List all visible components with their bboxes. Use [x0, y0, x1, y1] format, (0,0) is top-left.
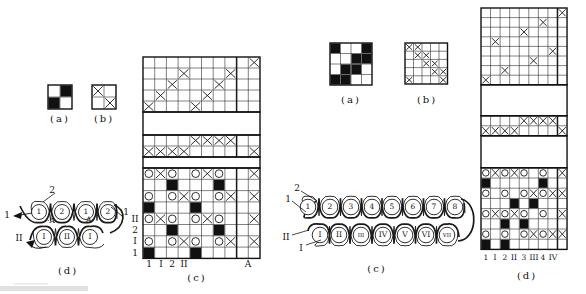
grid-cell-black	[190, 248, 201, 259]
grid-cell-circle	[192, 192, 200, 200]
annotation-line	[292, 230, 309, 235]
grid-cell-circle	[521, 231, 528, 238]
grid-cell-circle	[483, 210, 490, 217]
chain-circle-label: 4	[370, 202, 375, 211]
yarn-label-II: II	[282, 233, 289, 242]
yarn-label-1: 1	[285, 195, 291, 204]
grid-cell-circle	[502, 210, 509, 217]
col-label: 1	[146, 260, 152, 269]
grid-cell-circle	[540, 231, 547, 238]
blank-band	[481, 85, 567, 116]
chain-circle-label: 7	[432, 202, 437, 211]
knitting-pattern-figure: 1212IIII12345678IIIIIIIVVVIVII (a) (b) (…	[0, 0, 586, 294]
grid-cell-black	[481, 178, 490, 187]
chain-circle-label: VI	[421, 230, 430, 239]
chain-circle-label: 2	[106, 207, 111, 216]
chain-circle-label: I	[43, 232, 46, 241]
chain-circle-label: 6	[411, 202, 416, 211]
caption-left-c: (c)	[187, 273, 206, 283]
col-label: 2	[503, 254, 508, 262]
grid-cell-circle	[145, 170, 153, 178]
chain-circle-label: IV	[379, 230, 388, 239]
grid-cell-black	[481, 240, 490, 249]
caption-left-b: (b)	[94, 114, 114, 124]
col-label: 1	[484, 254, 489, 262]
grid-cell-black	[341, 75, 351, 85]
grid-cell-circle	[145, 238, 153, 246]
grid-cell-circle	[540, 210, 547, 217]
grid-cell-black	[330, 43, 340, 53]
grid-cell-black	[539, 178, 548, 187]
grid-cell-circle	[521, 190, 528, 197]
yarn-label-II: II	[15, 234, 22, 243]
grid-cell-black	[167, 225, 178, 236]
chain-circle-label: II	[64, 232, 70, 241]
yarn-label-I: I	[299, 244, 303, 253]
grid-cell-black	[48, 97, 59, 108]
chain-circle-label: VII	[442, 232, 451, 238]
chain-circle-label: 2	[60, 207, 65, 216]
caption-left-a: (a)	[50, 114, 70, 124]
col-label: 3	[522, 254, 527, 262]
grid-cell-circle	[145, 215, 153, 223]
grid-cell-circle	[483, 170, 490, 177]
scan-smudge	[0, 286, 88, 291]
col-label: 2	[169, 260, 175, 269]
grid-cell-circle	[192, 215, 200, 223]
grid-cell-circle	[215, 238, 223, 246]
col-label: III	[530, 254, 539, 262]
grid-cell-circle	[540, 190, 547, 197]
caption-right-c: (c)	[367, 264, 386, 274]
grid-cell-black	[501, 219, 510, 228]
grid-cell-circle	[168, 192, 176, 200]
grid-cell-circle	[521, 170, 528, 177]
col-label: 4	[541, 254, 546, 262]
grid-cell-black	[143, 202, 154, 213]
diagram-canvas: 1212IIII12345678IIIIIIIVVVIVII	[0, 0, 586, 294]
arrowhead	[26, 240, 35, 248]
grid-cell-circle	[192, 238, 200, 246]
grid-cell-circle	[168, 170, 176, 178]
blank-band	[143, 157, 260, 168]
grid-cell-black	[351, 64, 361, 74]
grid-cell-circle	[483, 190, 490, 197]
caption-right-b: (b)	[417, 95, 437, 105]
grid-cell-circle	[215, 192, 223, 200]
grid-cell-circle	[215, 215, 223, 223]
grid-cell-black	[214, 180, 225, 191]
chain-circle-label: 5	[390, 202, 395, 211]
grid-cell-circle	[502, 170, 509, 177]
grid-cell-black	[330, 75, 340, 85]
chain-circle-label: 8	[453, 202, 458, 211]
grid-cell-circle	[192, 170, 200, 178]
col-label: I	[159, 260, 163, 269]
row-label: 2	[132, 226, 138, 235]
chain-circle-label: 2	[328, 202, 333, 211]
grid-cell-circle	[502, 231, 509, 238]
grid-cell-black	[529, 199, 538, 208]
grid-cell-black	[351, 54, 361, 64]
grid-cell-circle	[521, 210, 528, 217]
arrowhead	[13, 212, 22, 219]
grid-cell-black	[341, 64, 351, 74]
blank-band	[481, 136, 567, 168]
chain-circle-label: 1	[306, 202, 311, 211]
chain-circle-label: 1	[37, 207, 42, 216]
row-label: 1	[132, 249, 138, 258]
caption-left-d: (d)	[58, 266, 78, 276]
grid-cell-circle	[145, 192, 153, 200]
grid-cell-black	[60, 85, 71, 96]
repeat-mark-A: ·A	[47, 217, 55, 225]
yarn-label-2: 2	[49, 186, 55, 195]
blank-band	[143, 112, 260, 135]
chain-circle-label: V	[401, 230, 408, 239]
chain-circle-label: I	[319, 230, 322, 239]
grid-cell-circle	[215, 170, 223, 178]
corner-label-A: A	[245, 260, 252, 269]
grid-cell-circle	[168, 215, 176, 223]
chain-circle-label: I	[89, 232, 92, 241]
grid-cell-black	[167, 180, 178, 191]
grid-cell-black	[214, 225, 225, 236]
grid-cell-black	[510, 199, 519, 208]
chain-circle-label: II	[336, 230, 342, 239]
